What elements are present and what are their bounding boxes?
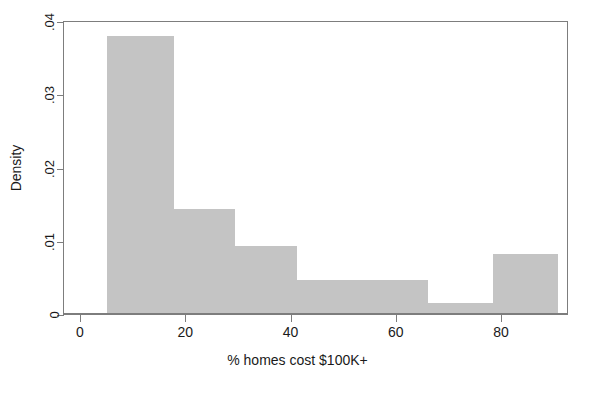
y-tick-label: 0 <box>48 311 61 318</box>
histogram-bar <box>107 36 174 313</box>
histogram-figure: 0.01.02.03.04 020406080 Density % homes … <box>0 0 595 393</box>
x-tick-label: 60 <box>388 325 404 339</box>
y-tick-mark <box>57 242 64 243</box>
y-tick-mark <box>57 22 64 23</box>
x-tick-mark <box>185 314 186 322</box>
plot-frame: 0.01.02.03.04 <box>63 21 568 314</box>
x-tick-label: 20 <box>177 325 193 339</box>
histogram-bar <box>363 280 428 313</box>
histogram-bar <box>297 280 363 313</box>
y-tick-label: .02 <box>42 159 55 177</box>
x-axis-title: % homes cost $100K+ <box>0 352 595 368</box>
x-tick-label: 0 <box>76 325 84 339</box>
y-tick-label: .01 <box>42 233 55 251</box>
x-tick-mark <box>291 314 292 322</box>
x-tick-mark <box>396 314 397 322</box>
x-tick-mark <box>80 314 81 322</box>
x-tick-label: 40 <box>283 325 299 339</box>
histogram-bar <box>493 254 558 313</box>
y-tick-label: .03 <box>42 86 55 104</box>
y-tick-mark <box>57 95 64 96</box>
x-tick-mark <box>501 314 502 322</box>
histogram-bar <box>235 246 297 313</box>
y-tick-label: .04 <box>42 13 55 31</box>
y-tick-mark <box>57 169 64 170</box>
x-tick-label: 80 <box>493 325 509 339</box>
histogram-bar <box>174 209 235 313</box>
x-axis-line <box>63 314 568 315</box>
plot-area <box>64 22 567 313</box>
y-axis-title: Density <box>8 145 24 192</box>
histogram-bar <box>428 303 493 313</box>
